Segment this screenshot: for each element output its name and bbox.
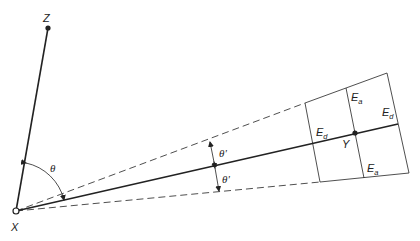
- label-y: Y: [342, 138, 350, 150]
- line-xy: [16, 124, 398, 211]
- lower-dashed-boundary: [16, 182, 320, 211]
- label-z: Z: [42, 12, 51, 24]
- label-theta-prime-lower: θ': [222, 173, 230, 185]
- label-theta: θ: [50, 162, 56, 174]
- theta-arc: [26, 163, 64, 200]
- upper-dashed-boundary: [16, 103, 305, 211]
- theta-prime-lower-arrow: [215, 168, 219, 191]
- label-theta-prime-upper: θ': [219, 147, 227, 159]
- label-ea-top: Ea: [351, 91, 363, 106]
- label-x: X: [10, 221, 19, 233]
- error-ellipse-diagram: X Z Y θ θ' θ' Ed Ed Ea Ea: [0, 0, 420, 241]
- label-ed-right: Ed: [382, 106, 394, 121]
- line-xz: [16, 28, 48, 211]
- point-x: [13, 208, 19, 214]
- theta-prime-upper-arrow: [210, 142, 214, 162]
- point-z: [45, 25, 50, 30]
- point-y: [352, 130, 357, 135]
- label-ea-bottom: Ea: [367, 162, 379, 177]
- label-ed-left: Ed: [316, 126, 328, 141]
